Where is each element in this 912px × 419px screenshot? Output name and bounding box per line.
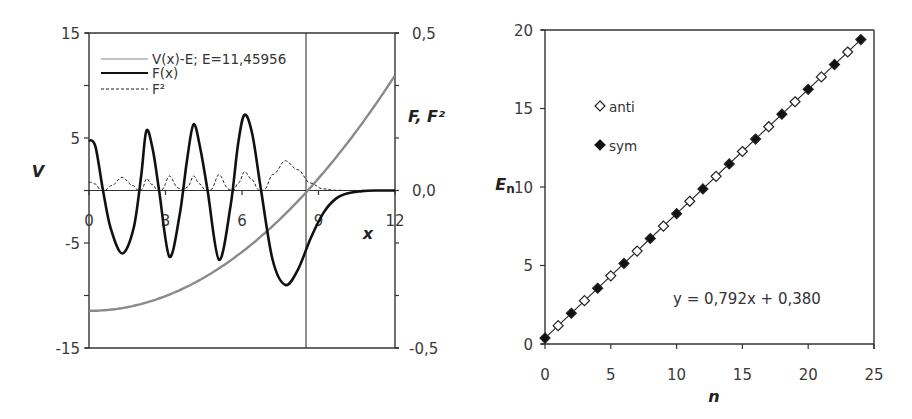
y-axis-title: V	[32, 162, 46, 181]
en-axis-title: En	[495, 175, 514, 196]
en-tick-20: 20	[514, 22, 533, 40]
y2-tick-0-0: 0,0	[412, 182, 436, 200]
n-tick-15: 15	[733, 366, 752, 384]
legend-label-wavefunction: F(x)	[152, 65, 178, 81]
x-tick-6: 6	[237, 212, 247, 230]
density-curve	[89, 161, 395, 191]
legend-label-density: F²	[152, 81, 165, 97]
figure-canvas: 15 5 -5 -15 0,5 0,0 -0,5 0 3 6 9 12 V F,…	[0, 0, 912, 419]
y2-axis-title: F, F²	[408, 107, 445, 126]
x-axis-title: x	[362, 224, 374, 243]
en-tick-0: 0	[523, 336, 533, 354]
legend-marker-anti	[595, 101, 605, 111]
legend-label-sym: sym	[609, 138, 637, 154]
n-tick-0: 0	[540, 366, 550, 384]
n-tick-5: 5	[606, 366, 616, 384]
right-legend: anti sym	[595, 99, 637, 154]
y-tick-5: 5	[70, 130, 80, 148]
legend-label-anti: anti	[609, 99, 635, 115]
n-tick-10: 10	[667, 366, 686, 384]
y2-tick-0-5: 0,5	[412, 25, 436, 43]
y-tick-neg15: -15	[56, 340, 81, 358]
energy-levels-chart: 0 5 10 15 20 0 5 10 15 20 25 n En anti s…	[495, 22, 883, 406]
n-tick-20: 20	[799, 366, 818, 384]
en-tick-10: 10	[514, 179, 533, 197]
right-chart-y-ticks	[540, 30, 545, 344]
en-axis-title-main: E	[495, 175, 506, 194]
wavefunction-chart: 15 5 -5 -15 0,5 0,0 -0,5 0 3 6 9 12 V F,…	[32, 25, 445, 358]
right-chart-x-ticks	[545, 344, 874, 349]
x-tick-0: 0	[84, 212, 94, 230]
n-tick-25: 25	[864, 366, 883, 384]
y-tick-neg5: -5	[65, 235, 80, 253]
en-tick-5: 5	[523, 257, 533, 275]
trendline-equation: y = 0,792x + 0,380	[673, 290, 821, 308]
en-tick-15: 15	[514, 100, 533, 118]
x-tick-12: 12	[385, 212, 404, 230]
left-legend: V(x)-E; E=11,45956 F(x) F²	[101, 51, 286, 97]
y-tick-15: 15	[61, 25, 80, 43]
en-axis-title-sub: n	[506, 182, 515, 196]
y2-tick-neg0-5: -0,5	[409, 340, 438, 358]
n-axis-title: n	[708, 387, 719, 406]
legend-marker-sym	[595, 140, 605, 150]
